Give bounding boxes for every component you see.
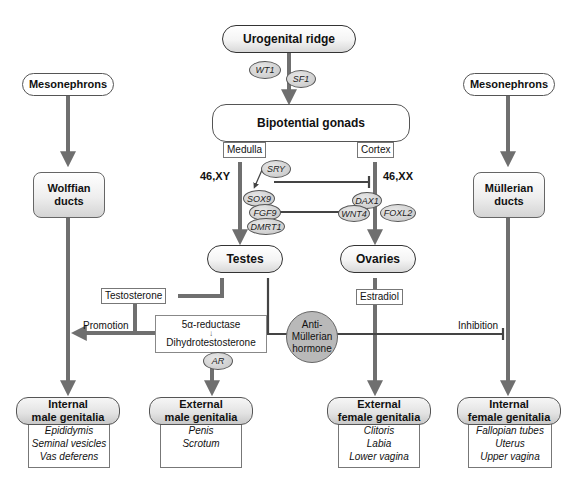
medulla-tag: Medulla — [223, 142, 266, 158]
list-item: Seminal vesicles — [32, 437, 106, 450]
urogenital-ridge-node: Urogenital ridge — [222, 25, 356, 53]
gene-wt1: WT1 — [249, 61, 281, 79]
list-item: Scrotum — [182, 437, 219, 450]
urogenital-ridge-label: Urogenital ridge — [243, 33, 335, 46]
gene-sf1: SF1 — [286, 70, 316, 88]
external-female-title-line1: External — [328, 398, 430, 411]
medulla-label: Medulla — [227, 144, 262, 155]
testes-label: Testes — [226, 253, 263, 266]
wolffian-label-line1: Wolffian — [47, 182, 90, 195]
list-item: Penis — [188, 424, 213, 437]
cortex-tag: Cortex — [357, 142, 394, 158]
list-item: Lower vagina — [349, 450, 408, 463]
arrow-sry-to-sox9 — [255, 170, 262, 186]
internal-female-list: Fallopian tubes Uterus Upper vagina — [468, 420, 552, 468]
gene-sry-label: SRY — [267, 164, 285, 174]
wolffian-label-line2: ducts — [54, 195, 83, 208]
external-male-header: External male genitalia — [149, 397, 253, 425]
amh-label-line1: Anti- — [302, 319, 323, 331]
mesonephrons-left-node: Mesonephrons — [22, 73, 114, 96]
karyotype-46xx: 46,XX — [383, 170, 413, 182]
promotion-label: Promotion — [83, 320, 129, 331]
gene-dmrt1: DMRT1 — [247, 218, 285, 235]
line-testes-to-amh — [268, 278, 290, 334]
mullerian-label-line2: ducts — [494, 195, 523, 208]
external-female-title-line2: female genitalia — [328, 411, 430, 424]
dht-label: Dihydrotestosterone — [166, 337, 256, 349]
line-testes-to-testosterone — [178, 278, 222, 296]
gene-sox9-label: SOX9 — [247, 194, 271, 204]
gene-dmrt1-label: DMRT1 — [251, 222, 282, 232]
list-item: Vas deferens — [40, 450, 99, 463]
inhibition-label: Inhibition — [458, 320, 498, 331]
list-item: Upper vagina — [480, 450, 539, 463]
gene-foxl2: FOXL2 — [380, 204, 416, 222]
gene-ar: AR — [203, 352, 233, 370]
gene-wnt4: WNT4 — [338, 205, 370, 222]
mesonephrons-right-label: Mesonephrons — [470, 78, 548, 91]
wolffian-ducts-node: Wolffian ducts — [33, 172, 105, 218]
mesonephrons-right-node: Mesonephrons — [463, 73, 555, 96]
amh-node: Anti- Müllerian hormone — [286, 311, 338, 363]
amh-label-line3: hormone — [292, 343, 331, 355]
internal-male-header: Internal male genitalia — [16, 397, 120, 425]
karyotype-46xy: 46,XY — [200, 170, 230, 182]
list-item: Clitoris — [364, 424, 395, 437]
gene-fgf9-label: FGF9 — [253, 208, 276, 218]
internal-female-header: Internal female genitalia — [457, 397, 561, 425]
ovaries-node: Ovaries — [340, 245, 416, 273]
internal-female-title-line2: female genitalia — [458, 411, 560, 424]
gene-wt1-label: WT1 — [256, 65, 275, 75]
bipotential-gonads-label: Bipotential gonads — [257, 117, 365, 130]
gene-wnt4-label: WNT4 — [341, 209, 367, 219]
external-male-title-line1: External — [150, 398, 252, 411]
bipotential-gonads-node: Bipotential gonads — [212, 104, 410, 142]
gene-dax1-label: DAX1 — [355, 196, 379, 206]
mesonephrons-left-label: Mesonephrons — [29, 78, 107, 91]
list-item: Uterus — [495, 437, 524, 450]
testosterone-label: Testosterone — [105, 290, 162, 301]
external-female-list: Clitoris Labia Lower vagina — [338, 420, 420, 468]
cortex-label: Cortex — [361, 144, 390, 155]
gene-sf1-label: SF1 — [293, 74, 310, 84]
estradiol-label: Estradiol — [360, 291, 399, 302]
gene-sry: SRY — [261, 160, 291, 178]
external-male-title-line2: male genitalia — [150, 411, 252, 424]
mullerian-ducts-node: Müllerian ducts — [473, 172, 545, 218]
internal-male-title-line2: male genitalia — [17, 411, 119, 424]
list-item: Epididymis — [45, 424, 93, 437]
gene-foxl2-label: FOXL2 — [384, 208, 413, 218]
testes-node: Testes — [207, 245, 283, 273]
internal-male-title-line1: Internal — [17, 398, 119, 411]
internal-female-title-line1: Internal — [458, 398, 560, 411]
external-female-header: External female genitalia — [327, 397, 431, 425]
amh-label-line2: Müllerian — [292, 331, 333, 343]
list-item: Labia — [367, 437, 391, 450]
internal-male-list: Epididymis Seminal vesicles Vas deferens — [28, 420, 110, 468]
external-male-list: Penis Scrotum — [160, 420, 242, 468]
dht-conversion-box: 5α-reductase ↓ Dihydrotestosterone — [155, 315, 267, 353]
gene-ar-label: AR — [212, 356, 225, 366]
ovaries-label: Ovaries — [356, 253, 400, 266]
mullerian-label-line1: Müllerian — [485, 182, 533, 195]
estradiol-tag: Estradiol — [356, 289, 403, 305]
sex-differentiation-diagram: Urogenital ridge WT1 SF1 Bipotential gon… — [0, 0, 579, 481]
testosterone-tag: Testosterone — [101, 288, 166, 304]
list-item: Fallopian tubes — [476, 424, 544, 437]
